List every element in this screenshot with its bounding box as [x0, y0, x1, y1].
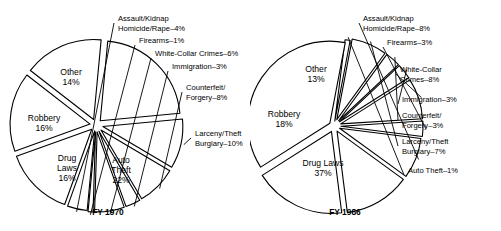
slice-label-line: Counterfeit/	[402, 111, 442, 120]
chart-caption-fy-1986: FY 1986	[329, 207, 361, 217]
slice-label-line: 22%	[112, 175, 130, 185]
slice-label-counterfeit-forgery: Counterfeit/Forgery–8%	[186, 83, 228, 102]
pie-svg-fy-1986: Auto Theft–1%Larceny/TheftBurglary–7%Cou…	[250, 0, 501, 231]
pie-svg-fy-1970: AutoTheft22%Larceny/TheftBurglary–10%Cou…	[0, 0, 250, 231]
slice-label-line: Burglary–7%	[402, 147, 446, 156]
slice-label-larceny-theft-burglary: Larceny/TheftBurglary–7%	[402, 137, 449, 156]
slice-label-line: Assault/Kidnap	[363, 14, 414, 23]
slice-label-line: Forgery–8%	[186, 93, 228, 102]
slice-label-firearms: Firearms–1%	[139, 36, 184, 45]
slice-label-line: Larceny/Theft	[402, 137, 449, 146]
slice-label-larceny-theft-burglary: Larceny/TheftBurglary–10%	[195, 129, 243, 148]
slice-label-line: Robbery	[28, 113, 61, 123]
slice-label-line: Firearms–1%	[139, 36, 184, 45]
slice-label-line: 14%	[62, 77, 80, 87]
slice-label-line: White-Collar	[400, 65, 442, 74]
slice-label-other: Other14%	[60, 67, 82, 87]
slice-label-line: Larceny/Theft	[195, 129, 242, 138]
slice-label-line: Assault/Kidnap	[118, 14, 169, 23]
slice-label-line: Counterfeit/	[186, 83, 226, 92]
slice-label-line: 37%	[314, 168, 332, 178]
slice-label-auto-theft: Auto Theft–1%	[408, 166, 458, 175]
slice-label-line: Crimes–8%	[400, 75, 439, 84]
slice-label-line: Homicide/Rape–4%	[118, 24, 185, 33]
slice-label-drug-laws: DrugLaws16%	[57, 153, 77, 183]
slice-label-line: Burglary–10%	[195, 139, 243, 148]
slice-label-line: 18%	[275, 119, 293, 129]
slice-label-line: Forgery–3%	[402, 121, 444, 130]
slice-label-line: 16%	[35, 123, 53, 133]
slice-label-assault-kidnap-homicide-rape: Assault/KidnapHomicide/Rape–4%	[118, 14, 185, 33]
slice-label-line: Homicide/Rape–8%	[363, 24, 430, 33]
leader-line-larceny-theft-burglary	[184, 138, 191, 145]
slice-label-line: Drug	[58, 153, 77, 163]
slice-label-line: Auto Theft–1%	[408, 166, 458, 175]
slice-label-counterfeit-forgery: Counterfeit/Forgery–3%	[402, 111, 444, 130]
pie-chart-fy-1970: AutoTheft22%Larceny/TheftBurglary–10%Cou…	[0, 0, 250, 231]
slice-label-auto-theft: AutoTheft22%	[111, 155, 131, 185]
slice-label-line: Drug Laws	[302, 158, 343, 168]
slice-label-line: Other	[305, 64, 327, 74]
slice-label-assault-kidnap-homicide-rape: Assault/KidnapHomicide/Rape–8%	[363, 14, 430, 33]
slice-label-line: Firearms–3%	[387, 38, 432, 47]
slice-label-line: Immigration–3%	[402, 95, 457, 104]
slice-label-line: Auto	[112, 155, 130, 165]
slice-label-other: Other13%	[305, 64, 327, 84]
slice-label-line: Other	[60, 67, 82, 77]
slice-label-immigration: Immigration–3%	[402, 95, 457, 104]
pie-chart-fy-1986: Auto Theft–1%Larceny/TheftBurglary–7%Cou…	[250, 0, 501, 231]
slice-label-firearms: Firearms–3%	[387, 38, 432, 47]
chart-caption-fy-1970: FY 1970	[92, 207, 124, 217]
slice-label-line: 16%	[58, 173, 76, 183]
slice-label-line: Theft	[111, 165, 131, 175]
slice-label-line: 13%	[307, 74, 325, 84]
slice-label-line: White-Collar Crimes–6%	[155, 49, 238, 58]
slice-label-line: Immigration–3%	[172, 62, 227, 71]
slice-label-line: Robbery	[268, 109, 301, 119]
slice-label-line: Laws	[57, 163, 77, 173]
slice-label-immigration: Immigration–3%	[172, 62, 227, 71]
slice-label-white-collar-crimes: White-CollarCrimes–8%	[400, 65, 442, 84]
figure-root: AutoTheft22%Larceny/TheftBurglary–10%Cou…	[0, 0, 501, 231]
slice-label-white-collar-crimes: White-Collar Crimes–6%	[155, 49, 238, 58]
